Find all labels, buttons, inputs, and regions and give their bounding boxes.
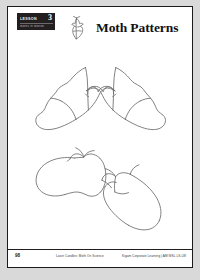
lesson-badge-divider (20, 23, 53, 24)
lesson-badge-top-row: Lesson 3 (20, 14, 53, 22)
lesson-badge-subtitle: Moths in Motion (20, 25, 53, 28)
page-header: Lesson 3 Moths in Motion Moth Patterns (8, 7, 192, 47)
moth-outline-top-right (86, 68, 165, 130)
worksheet-page: Lesson 3 Moths in Motion Moth Patterns (7, 6, 193, 268)
page-title: Moth Patterns (96, 20, 178, 36)
lesson-badge-number: 3 (48, 14, 52, 22)
footer-page-number: 98 (15, 253, 20, 258)
page-footer: 98 Laser Candles: Moth On Science Kigam … (8, 249, 192, 267)
footer-divider (8, 249, 192, 250)
lesson-badge: Lesson 3 Moths in Motion (17, 13, 55, 30)
moth-outline-top-left (36, 68, 115, 130)
moth-outline-canvas (8, 45, 193, 251)
moth-illustration-icon (62, 15, 92, 45)
lesson-badge-label: Lesson (20, 18, 37, 22)
footer-credit-left: Laser Candles: Moth On Science (56, 254, 104, 258)
moth-outline-bottom-left (36, 148, 106, 196)
moth-outline-bottom-right (102, 165, 161, 230)
footer-credit-right: Kigam Corporate Learning | AM WSL.LS-LW (122, 254, 186, 258)
